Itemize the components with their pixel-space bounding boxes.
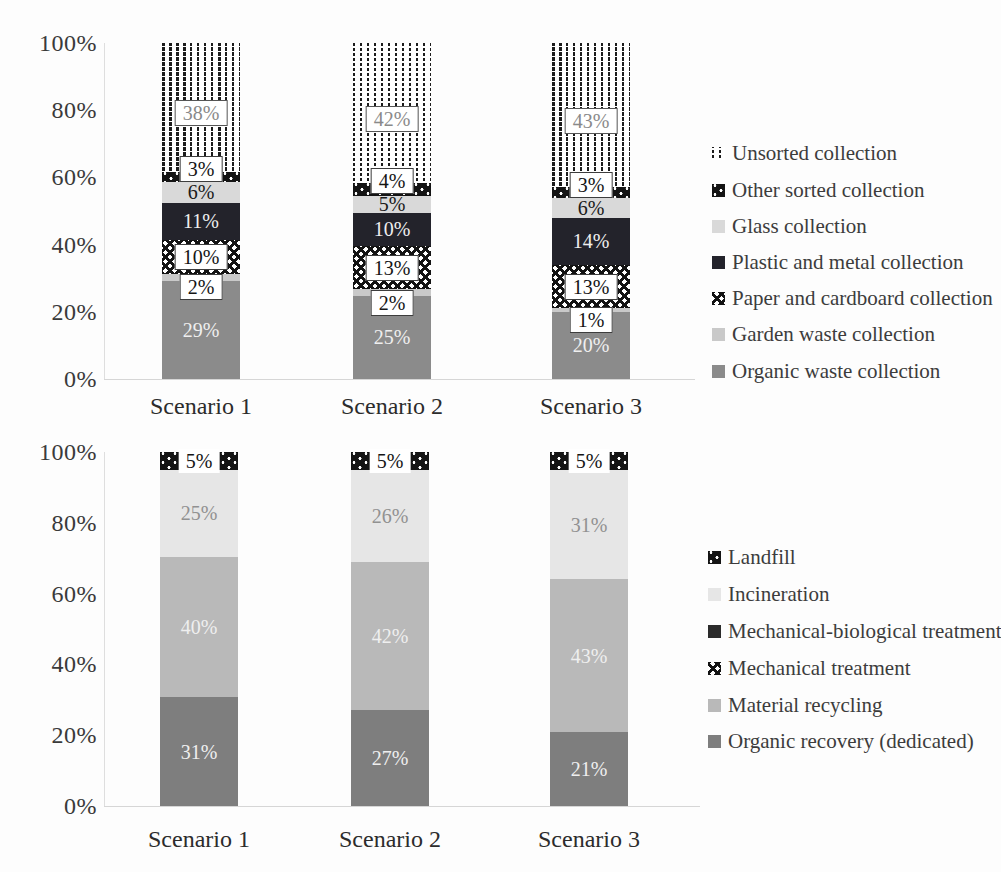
data-label: 31%: [571, 514, 608, 536]
y-tick-label: 100%: [15, 30, 97, 57]
legend-swatch-icon: [712, 328, 725, 341]
legend-item-garden-waste-collection: Garden waste collection: [712, 317, 993, 353]
data-label: 14%: [573, 230, 610, 252]
y-tick-label: 0%: [15, 793, 97, 820]
data-label: 5%: [370, 449, 411, 473]
data-label: 6%: [188, 181, 215, 203]
data-label: 5%: [569, 449, 610, 473]
data-label: 13%: [366, 255, 419, 281]
legend-item-label: Plastic and metal collection: [732, 250, 964, 275]
legend-item-label: Landfill: [728, 545, 796, 570]
data-label: 2%: [180, 274, 223, 300]
legend-item-unsorted-collection: Unsorted collection: [712, 136, 993, 172]
data-label: 20%: [573, 334, 610, 356]
y-tick-label: 20%: [15, 722, 97, 749]
category-label: Scenario 1: [148, 826, 250, 853]
category-label: Scenario 3: [540, 393, 642, 420]
legend-item-label: Organic waste collection: [732, 359, 940, 384]
legend-swatch-icon: [708, 662, 721, 675]
legend-item-label: Paper and cardboard collection: [732, 286, 993, 311]
legend-item-other-sorted-collection: Other sorted collection: [712, 172, 993, 208]
data-label: 10%: [374, 218, 411, 240]
data-label: 38%: [175, 100, 228, 126]
x-axis-line: [104, 379, 695, 380]
y-tick-label: 20%: [15, 298, 97, 325]
legend-item-organic-recovery-dedicated: Organic recovery (dedicated): [708, 724, 1001, 761]
data-label: 42%: [366, 106, 419, 132]
legend-item-label: Unsorted collection: [732, 141, 897, 166]
data-label: 25%: [181, 502, 218, 524]
data-label: 11%: [183, 210, 219, 232]
data-label: 27%: [372, 747, 409, 769]
data-label: 31%: [181, 741, 218, 763]
data-label: 6%: [578, 197, 605, 219]
stacked-bar-figure: 100%80%60%40%20%0%29%2%10%11%6%3%38%Scen…: [0, 0, 1001, 872]
legend-swatch-icon: [712, 184, 725, 197]
data-label: 1%: [570, 307, 613, 333]
category-label: Scenario 2: [339, 826, 441, 853]
legend-item-paper-and-cardboard-collection: Paper and cardboard collection: [712, 281, 993, 317]
y-tick-label: 40%: [15, 231, 97, 258]
data-label: 29%: [183, 319, 220, 341]
legend-swatch-icon: [712, 256, 725, 269]
legend: LandfillIncinerationMechanical-biologica…: [708, 540, 1001, 761]
category-label: Scenario 2: [341, 393, 443, 420]
data-label: 43%: [565, 108, 618, 134]
y-tick-label: 60%: [15, 164, 97, 191]
category-label: Scenario 1: [150, 393, 252, 420]
legend-swatch-icon: [708, 588, 721, 601]
legend-swatch-icon: [712, 292, 725, 305]
data-label: 10%: [175, 244, 228, 270]
data-label: 26%: [372, 505, 409, 527]
data-label: 25%: [374, 326, 411, 348]
legend-item-label: Other sorted collection: [732, 178, 924, 203]
legend-swatch-icon: [708, 735, 721, 748]
legend-item-label: Organic recovery (dedicated): [728, 729, 974, 754]
legend-item-plastic-and-metal-collection: Plastic and metal collection: [712, 244, 993, 280]
legend-item-material-recycling: Material recycling: [708, 687, 1001, 724]
legend-item-organic-waste-collection: Organic waste collection: [712, 353, 993, 389]
data-label: 21%: [571, 758, 608, 780]
data-label: 40%: [181, 616, 218, 638]
legend-item-label: Mechanical-biological treatment: [728, 619, 1001, 644]
legend-swatch-icon: [712, 220, 725, 233]
data-label: 42%: [372, 625, 409, 647]
data-label: 43%: [571, 645, 608, 667]
legend-item-mechanical-treatment: Mechanical treatment: [708, 650, 1001, 687]
data-label: 3%: [570, 172, 613, 198]
legend-item-mechanical-biological-treatment: Mechanical-biological treatment: [708, 613, 1001, 650]
legend-item-incineration: Incineration: [708, 576, 1001, 613]
data-label: 5%: [179, 449, 220, 473]
legend-swatch-icon: [712, 147, 725, 160]
legend-swatch-icon: [708, 625, 721, 638]
legend-swatch-icon: [708, 699, 721, 712]
data-label: 5%: [379, 193, 406, 215]
legend-item-label: Material recycling: [728, 693, 883, 718]
y-tick-label: 100%: [15, 439, 97, 466]
y-axis-line: [104, 43, 105, 379]
y-tick-label: 40%: [15, 651, 97, 678]
legend-item-landfill: Landfill: [708, 540, 1001, 577]
legend: Unsorted collectionOther sorted collecti…: [712, 136, 993, 389]
data-label: 2%: [371, 290, 414, 316]
legend-swatch-icon: [712, 365, 725, 378]
y-axis-line: [104, 452, 105, 806]
legend-item-label: Mechanical treatment: [728, 656, 911, 681]
legend-swatch-icon: [708, 551, 721, 564]
legend-item-label: Glass collection: [732, 214, 867, 239]
data-label: 13%: [565, 274, 618, 300]
category-label: Scenario 3: [538, 826, 640, 853]
x-axis-line: [104, 806, 700, 807]
y-tick-label: 80%: [15, 97, 97, 124]
data-label: 3%: [180, 156, 223, 182]
y-tick-label: 60%: [15, 580, 97, 607]
y-tick-label: 80%: [15, 509, 97, 536]
legend-item-glass-collection: Glass collection: [712, 208, 993, 244]
data-label: 4%: [371, 168, 414, 194]
legend-item-label: Garden waste collection: [732, 322, 935, 347]
legend-item-label: Incineration: [728, 582, 829, 607]
y-tick-label: 0%: [15, 366, 97, 393]
